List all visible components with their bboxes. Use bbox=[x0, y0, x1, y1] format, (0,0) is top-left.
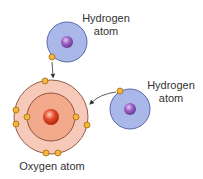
hydrogen-top-label-line2: atom bbox=[80, 25, 132, 38]
oxygen-electron bbox=[13, 121, 19, 127]
hydrogen-right-label-line2: atom bbox=[143, 92, 199, 105]
oxygen-electron bbox=[13, 107, 19, 113]
oxygen-atom bbox=[13, 78, 90, 156]
oxygen-electron bbox=[84, 122, 90, 128]
oxygen-electron bbox=[43, 150, 49, 156]
bond-arrow-top bbox=[52, 62, 53, 76]
hydrogen-right-label: Hydrogen atom bbox=[143, 79, 199, 105]
hydrogen-electron bbox=[49, 54, 55, 60]
oxygen-electron bbox=[24, 114, 30, 120]
oxygen-electron bbox=[42, 78, 48, 84]
hydrogen-nucleus bbox=[124, 103, 136, 115]
oxygen-electron bbox=[73, 114, 79, 120]
hydrogen-top-label-line1: Hydrogen bbox=[80, 12, 132, 25]
hydrogen-top-label: Hydrogen atom bbox=[80, 12, 132, 38]
hydrogen-right-label-line1: Hydrogen bbox=[143, 79, 199, 92]
oxygen-label: Oxygen atom bbox=[14, 160, 90, 173]
hydrogen-electron bbox=[117, 88, 123, 94]
hydrogen-nucleus bbox=[61, 36, 73, 48]
oxygen-nucleus bbox=[43, 109, 59, 125]
oxygen-electron bbox=[55, 150, 61, 156]
